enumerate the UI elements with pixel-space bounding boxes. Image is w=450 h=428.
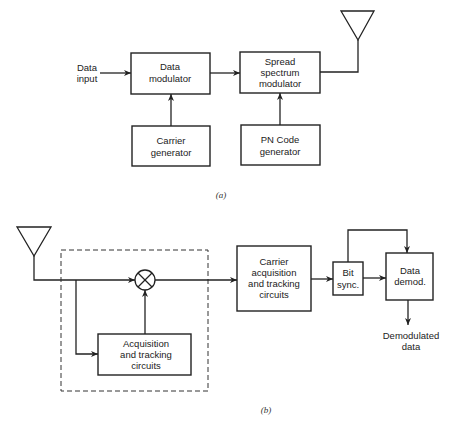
data-modulator-block: Data modulator <box>131 53 210 94</box>
carrier-generator-block: Carrier generator <box>132 126 210 166</box>
svg-text:Data: Data <box>400 265 421 276</box>
mixer-multiplier-icon <box>135 270 155 290</box>
svg-text:Carrier: Carrier <box>156 135 185 146</box>
svg-text:circuits: circuits <box>259 289 289 300</box>
spread-spectrum-block-diagram: Data input Data modulator Spread spectru… <box>0 0 450 428</box>
svg-text:Carrier: Carrier <box>259 256 288 267</box>
caption-a: (a) <box>216 190 227 200</box>
data-input-label-line1: Data <box>77 62 98 73</box>
svg-text:Bit: Bit <box>342 267 353 278</box>
carrier-acquisition-block: Carrier acquisition and tracking circuit… <box>237 246 311 311</box>
data-demod-block: Data demod. <box>386 253 433 300</box>
diagram-a-transmitter: Data input Data modulator Spread spectru… <box>77 11 374 200</box>
svg-text:sync.: sync. <box>337 279 359 290</box>
svg-text:demod.: demod. <box>394 276 426 287</box>
svg-text:generator: generator <box>151 147 192 158</box>
acquisition-tracking-block: Acquisition and tracking circuits <box>98 334 191 375</box>
antenna-icon-transmit <box>320 11 374 72</box>
branch-to-acquisition-arrow <box>76 280 98 354</box>
demodulated-data-label-line2: data <box>402 341 421 352</box>
svg-text:Acquisition: Acquisition <box>123 338 169 349</box>
svg-text:modulator: modulator <box>259 78 301 89</box>
diagram-b-receiver: Acquisition and tracking circuits Carrie… <box>17 227 439 415</box>
pn-code-generator-block: PN Code generator <box>241 125 320 165</box>
svg-text:modulator: modulator <box>149 73 191 84</box>
svg-text:acquisition: acquisition <box>252 267 297 278</box>
antenna-icon-receive <box>17 227 76 280</box>
spread-spectrum-modulator-block: Spread spectrum modulator <box>240 52 320 93</box>
data-input-label-line2: input <box>77 73 98 84</box>
svg-text:circuits: circuits <box>131 360 161 371</box>
caption-b: (b) <box>261 405 272 415</box>
svg-text:spectrum: spectrum <box>260 67 299 78</box>
svg-text:generator: generator <box>260 146 301 157</box>
bit-sync-block: Bit sync. <box>333 262 363 295</box>
svg-text:and tracking: and tracking <box>248 278 300 289</box>
svg-text:PN Code: PN Code <box>261 134 300 145</box>
svg-text:Spread: Spread <box>265 56 296 67</box>
svg-text:and tracking: and tracking <box>120 349 172 360</box>
demodulated-data-label-line1: Demodulated <box>383 330 440 341</box>
svg-text:Data: Data <box>160 61 181 72</box>
